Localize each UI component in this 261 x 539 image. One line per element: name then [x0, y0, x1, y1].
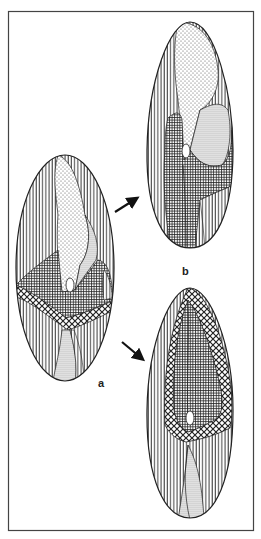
grain-c [140, 285, 240, 525]
hilum-a [66, 278, 74, 292]
label-b: b [182, 265, 189, 277]
grain-a: a [10, 150, 120, 390]
grain-b: b [140, 20, 240, 277]
hilum-b [182, 144, 190, 158]
arrow-a-to-c [122, 342, 140, 357]
arrow-a-to-b [115, 200, 134, 212]
label-a: a [98, 377, 105, 389]
grain-development-diagram: a b [0, 0, 261, 539]
hilum-c [186, 411, 194, 425]
